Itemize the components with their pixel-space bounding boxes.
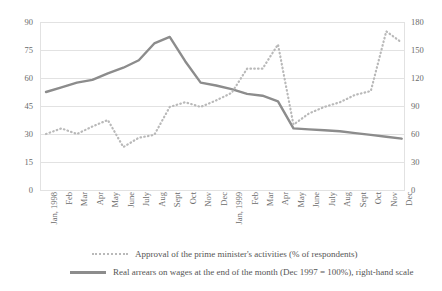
x-axis-tick: June xyxy=(312,192,321,208)
right-axis-tick: 180 xyxy=(411,18,424,27)
solid-line-marker-icon xyxy=(70,267,106,277)
x-axis-tick: Jan, 1998 xyxy=(50,192,59,225)
x-axis-tick: Feb xyxy=(251,192,260,205)
legend-item-real-arrears: Real arrears on wages at the end of the … xyxy=(0,263,442,281)
x-axis-tick: July xyxy=(142,192,151,206)
x-axis-tick: July xyxy=(328,192,337,206)
series-line-approval xyxy=(46,31,402,147)
dotted-line-marker-icon xyxy=(92,249,128,259)
right-axis-tick: 60 xyxy=(411,130,420,139)
x-axis-tick: Dec xyxy=(405,192,414,206)
left-axis-tick: 90 xyxy=(25,18,34,27)
x-axis-tick-labels: Jan, 1998FebMarAprMayJuneJulyAugSeptOctN… xyxy=(40,192,405,250)
x-axis-tick: Aug xyxy=(343,192,352,207)
x-axis-tick: Apr xyxy=(96,192,105,205)
plot-area xyxy=(40,22,405,190)
x-axis-tick: Mar xyxy=(266,192,275,206)
right-axis-tick: 30 xyxy=(411,158,420,167)
x-axis-tick: Jan, 1999 xyxy=(235,192,244,225)
chart-legend: Approval of the prime minister's activit… xyxy=(0,245,442,281)
x-axis-tick: Nov xyxy=(204,192,213,207)
left-axis-tick: 75 xyxy=(25,46,34,55)
x-axis-tick: Sept xyxy=(173,192,182,207)
x-axis-tick: May xyxy=(297,192,306,208)
x-axis-tick: Nov xyxy=(390,192,399,207)
left-axis-tick: 45 xyxy=(25,102,34,111)
right-axis-tick: 150 xyxy=(411,46,424,55)
legend-item-approval: Approval of the prime minister's activit… xyxy=(0,245,442,263)
left-axis-tick: 15 xyxy=(25,158,34,167)
x-axis-tick: June xyxy=(127,192,136,208)
left-axis-tick: 60 xyxy=(25,74,34,83)
legend-label-approval: Approval of the prime minister's activit… xyxy=(135,248,358,260)
x-axis-tick: Feb xyxy=(65,192,74,205)
x-axis-tick: Oct xyxy=(374,192,383,204)
line-chart: 9075604530150 1801501209060300 Jan, 1998… xyxy=(0,0,442,291)
x-axis-tick: Aug xyxy=(158,192,167,207)
series-layer xyxy=(40,22,405,190)
x-axis-tick: Apr xyxy=(281,192,290,205)
legend-label-real-arrears: Real arrears on wages at the end of the … xyxy=(113,266,413,278)
x-axis-tick: Sept xyxy=(359,192,368,207)
x-axis-tick: Dec xyxy=(220,192,229,206)
right-axis-tick: 120 xyxy=(411,74,424,83)
x-axis-tick: Mar xyxy=(80,192,89,206)
right-axis-tick: 90 xyxy=(411,102,420,111)
left-axis-tick: 30 xyxy=(25,130,34,139)
left-axis-tick: 0 xyxy=(29,186,33,195)
x-axis-tick: Oct xyxy=(189,192,198,204)
x-axis-tick: May xyxy=(111,192,120,208)
